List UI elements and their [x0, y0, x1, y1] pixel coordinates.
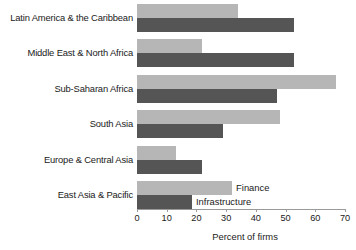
bar-finance-middle-east-north-africa — [137, 39, 202, 53]
bar-finance-latin-america — [137, 4, 238, 18]
x-tick-10 — [167, 209, 168, 212]
category-label-europe-central-asia: Europe & Central Asia — [0, 154, 133, 165]
legend-label-finance: Finance — [236, 182, 269, 193]
bar-finance-east-asia-pacific — [137, 181, 232, 195]
x-tick-30 — [226, 209, 227, 212]
bar-chart: Latin America & the Caribbean Middle Eas… — [0, 0, 356, 250]
category-label-sub-saharan-africa: Sub-Saharan Africa — [0, 83, 133, 94]
bar-infrastructure-sub-saharan-africa — [137, 89, 277, 103]
x-tick-label-20: 20 — [184, 213, 208, 224]
x-tick-40 — [256, 209, 257, 212]
x-axis-title: Percent of firms — [0, 231, 356, 242]
x-tick-label-10: 10 — [155, 213, 179, 224]
bar-finance-europe-central-asia — [137, 146, 176, 160]
x-axis-title-text: Percent of firms — [212, 231, 278, 242]
bar-finance-sub-saharan-africa — [137, 75, 336, 89]
x-tick-0 — [137, 209, 138, 212]
x-tick-label-30: 30 — [214, 213, 238, 224]
bar-infrastructure-middle-east-north-africa — [137, 53, 294, 67]
x-tick-label-70: 70 — [333, 213, 356, 224]
x-tick-label-40: 40 — [244, 213, 268, 224]
x-tick-label-60: 60 — [303, 213, 327, 224]
bar-infrastructure-latin-america — [137, 18, 294, 32]
x-tick-label-0: 0 — [125, 213, 149, 224]
x-axis-line — [137, 209, 345, 210]
category-axis: Latin America & the Caribbean Middle Eas… — [0, 0, 133, 210]
bar-finance-south-asia — [137, 110, 280, 124]
x-tick-50 — [286, 209, 287, 212]
category-label-middle-east-north-africa: Middle East & North Africa — [0, 47, 133, 58]
legend-label-infrastructure: Infrastructure — [196, 196, 251, 207]
bar-infrastructure-south-asia — [137, 124, 223, 138]
x-tick-60 — [315, 209, 316, 212]
x-tick-20 — [196, 209, 197, 212]
category-label-south-asia: South Asia — [0, 118, 133, 129]
x-tick-70 — [345, 209, 346, 212]
plot-area: Finance Infrastructure — [137, 0, 356, 210]
category-label-latin-america: Latin America & the Caribbean — [0, 12, 133, 23]
x-tick-label-50: 50 — [274, 213, 298, 224]
bar-infrastructure-europe-central-asia — [137, 160, 202, 174]
bar-infrastructure-east-asia-pacific — [137, 195, 192, 209]
category-label-east-asia-pacific: East Asia & Pacific — [0, 189, 133, 200]
